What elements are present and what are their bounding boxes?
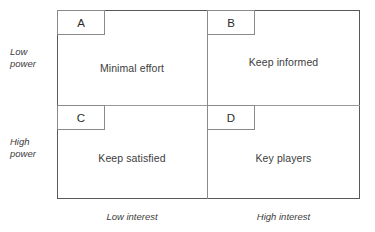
axis-label-high-power-line1: High	[10, 136, 36, 148]
axis-label-low-power-line1: Low	[10, 46, 36, 58]
axis-label-low-power: Low power	[10, 46, 36, 70]
power-interest-grid-diagram: Minimal effort Keep informed Keep satisf…	[0, 0, 375, 232]
axis-label-high-power: High power	[10, 136, 36, 160]
axis-label-low-interest: Low interest	[57, 211, 207, 222]
quadrant-key-box-c: C	[57, 105, 105, 130]
axis-label-high-power-line2: power	[10, 148, 36, 160]
quadrant-key-box-a: A	[57, 10, 105, 35]
axis-label-high-interest: High interest	[207, 211, 360, 222]
quadrant-key-box-d: D	[207, 105, 255, 130]
axis-label-low-power-line2: power	[10, 58, 36, 70]
quadrant-a-label: Minimal effort	[57, 62, 207, 74]
quadrant-key-box-b: B	[207, 10, 255, 35]
quadrant-d-label: Key players	[207, 152, 360, 164]
quadrant-c-label: Keep satisfied	[57, 152, 207, 164]
quadrant-b-label: Keep informed	[207, 56, 360, 68]
